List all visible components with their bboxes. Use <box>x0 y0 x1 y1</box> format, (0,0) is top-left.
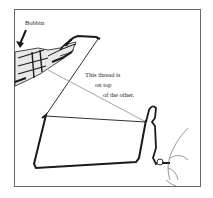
annotation-line-3: of the other. <box>103 92 134 99</box>
top-thread <box>45 116 146 122</box>
illustration <box>0 0 213 198</box>
hand-illustration <box>166 128 188 186</box>
arrow-icon <box>16 30 26 48</box>
annotation-line-1: This thread is <box>85 72 120 79</box>
annotation-line-2: on top <box>95 82 111 89</box>
hook-wire <box>146 106 160 164</box>
bobbin-label: Bobbin <box>25 20 44 27</box>
wire-frame <box>34 115 146 168</box>
bobbin-illustration <box>15 36 100 86</box>
